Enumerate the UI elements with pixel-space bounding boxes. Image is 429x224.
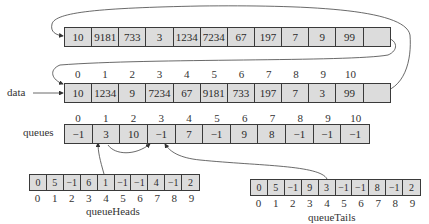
data-cell: 733 — [228, 84, 255, 102]
index-label: 1 — [46, 192, 63, 204]
index-label: 10 — [342, 112, 370, 124]
queues-array: −1 3 10 −1 7 −1 9 8 −1 −1 −1 — [64, 124, 370, 144]
top-array: 10 9181 733 3 1234 7234 67 197 7 9 99 — [64, 27, 391, 47]
queues-cell: −1 — [203, 125, 231, 143]
index-label: 3 — [147, 112, 175, 124]
index-label: 0 — [64, 68, 91, 80]
top-cell: 3 — [146, 28, 173, 46]
data-cell: 10 — [65, 84, 92, 102]
index-label: 0 — [29, 192, 46, 204]
data-cell-empty — [364, 84, 391, 102]
queues-cell: −1 — [341, 125, 369, 143]
queue-tails-cell: 3 — [319, 180, 336, 195]
top-cell: 197 — [255, 28, 282, 46]
queues-cell: 8 — [258, 125, 286, 143]
index-label: 9 — [404, 197, 421, 209]
top-cell: 7234 — [201, 28, 228, 46]
data-cell: 7 — [282, 84, 309, 102]
queue-tails-array: 0 5 −1 9 3 −1 −1 8 −1 2 — [250, 179, 421, 196]
index-label: 3 — [146, 68, 173, 80]
index-label: 8 — [286, 112, 314, 124]
index-label: 1 — [267, 197, 284, 209]
queue-heads-cell: 5 — [47, 175, 64, 190]
queue-tails-cell: 0 — [251, 180, 268, 195]
top-cell-empty — [364, 28, 391, 46]
data-array: 10 1234 9 7234 67 9181 733 197 7 3 99 — [64, 83, 391, 103]
data-cell: 9 — [119, 84, 146, 102]
queue-heads-array: 0 5 −1 6 1 −1 −1 4 −1 2 — [29, 174, 200, 191]
index-label: 9 — [310, 68, 337, 80]
queues-cell: 7 — [176, 125, 204, 143]
index-label: 4 — [173, 68, 200, 80]
queue-tails-indices: 0 1 2 3 4 5 6 7 8 9 — [250, 197, 421, 209]
data-indices: 0 1 2 3 4 5 6 7 8 9 10 — [64, 68, 364, 80]
data-cell: 3 — [309, 84, 336, 102]
index-label: 5 — [114, 192, 131, 204]
queue-tails-cell: 5 — [268, 180, 285, 195]
index-label: 4 — [97, 192, 114, 204]
index-label: 7 — [149, 192, 166, 204]
index-label: 10 — [337, 68, 364, 80]
queue-tails-cell: −1 — [336, 180, 353, 195]
index-label: 2 — [119, 68, 146, 80]
queue-heads-indices: 0 1 2 3 4 5 6 7 8 9 — [29, 192, 200, 204]
index-label: 4 — [175, 112, 203, 124]
top-cell: 10 — [65, 28, 92, 46]
queue-heads-cell: 0 — [30, 175, 47, 190]
index-label: 8 — [166, 192, 183, 204]
queues-label: queues — [23, 126, 54, 138]
queue-heads-cell: −1 — [64, 175, 81, 190]
index-label: 1 — [91, 68, 118, 80]
top-cell: 9181 — [92, 28, 119, 46]
queue-heads-cell: −1 — [115, 175, 132, 190]
index-label: 2 — [120, 112, 148, 124]
queues-cell: 9 — [231, 125, 259, 143]
index-label: 4 — [318, 197, 335, 209]
index-label: 6 — [132, 192, 149, 204]
queue-heads-cell: −1 — [131, 175, 148, 190]
top-cell: 9 — [309, 28, 336, 46]
queues-cell: −1 — [65, 125, 93, 143]
data-cell: 67 — [174, 84, 201, 102]
queue-tails-cell: 2 — [403, 180, 420, 195]
queues-indices: 0 1 2 3 4 5 6 7 8 9 10 — [64, 112, 370, 124]
top-cell: 7 — [282, 28, 309, 46]
index-label: 9 — [183, 192, 200, 204]
index-label: 6 — [353, 197, 370, 209]
index-label: 9 — [314, 112, 342, 124]
queue-heads-cell: 1 — [98, 175, 115, 190]
data-cell: 197 — [255, 84, 282, 102]
index-label: 1 — [92, 112, 120, 124]
top-cell: 1234 — [174, 28, 201, 46]
data-cell: 7234 — [146, 84, 173, 102]
index-label: 5 — [200, 68, 227, 80]
index-label: 8 — [387, 197, 404, 209]
queues-cell: 3 — [93, 125, 121, 143]
index-label: 7 — [370, 197, 387, 209]
queue-heads-cell: −1 — [165, 175, 182, 190]
index-label: 3 — [301, 197, 318, 209]
index-label: 8 — [282, 68, 309, 80]
queues-cell: 10 — [120, 125, 148, 143]
top-cell: 67 — [228, 28, 255, 46]
index-label: 0 — [64, 112, 92, 124]
index-label: 7 — [259, 112, 287, 124]
queue-tails-label: queueTails — [308, 211, 356, 223]
queue-tails-cell: −1 — [386, 180, 403, 195]
index-label: 3 — [80, 192, 97, 204]
index-label: 2 — [284, 197, 301, 209]
queue-heads-cell: 4 — [148, 175, 165, 190]
index-label: 5 — [203, 112, 231, 124]
index-label: 5 — [335, 197, 352, 209]
queue-tails-cell: 9 — [302, 180, 319, 195]
index-label: 6 — [231, 112, 259, 124]
queue-tails-cell: −1 — [285, 180, 302, 195]
index-label: 6 — [228, 68, 255, 80]
index-label: 0 — [250, 197, 267, 209]
top-cell: 733 — [119, 28, 146, 46]
data-cell: 99 — [336, 84, 363, 102]
queues-cell: −1 — [148, 125, 176, 143]
queue-heads-label: queueHeads — [86, 205, 140, 217]
data-label: data — [7, 86, 25, 98]
top-cell: 99 — [336, 28, 363, 46]
